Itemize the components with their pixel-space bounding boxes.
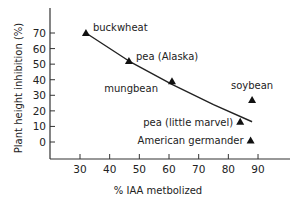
x-tick-label: 90 <box>251 163 264 175</box>
y-tick-label: 70 <box>33 27 46 39</box>
y-tick-label: 0 <box>39 136 46 148</box>
triangle-marker <box>125 57 133 64</box>
y-tick-label: 40 <box>33 74 46 86</box>
triangle-marker <box>168 77 176 84</box>
point-label: mungbean <box>104 83 158 94</box>
point-label: American germander <box>138 135 245 146</box>
y-tick-label: 20 <box>33 105 46 117</box>
triangle-marker <box>248 96 256 103</box>
x-tick-label: 80 <box>222 163 235 175</box>
axes: 01020304050607030405060708090 <box>33 8 290 175</box>
x-axis-label: % IAA metbolized <box>114 185 202 196</box>
y-tick-label: 10 <box>33 120 46 132</box>
point-label: buckwheat <box>93 22 148 33</box>
trend-line <box>86 33 252 122</box>
point-label: soybean <box>231 80 273 91</box>
point-label: pea (Alaska) <box>136 51 198 62</box>
x-tick-label: 50 <box>133 163 146 175</box>
triangle-marker <box>247 136 255 143</box>
triangle-marker <box>236 118 244 125</box>
y-tick-label: 30 <box>33 89 46 101</box>
y-tick-label: 50 <box>33 58 46 70</box>
scatter-chart: 01020304050607030405060708090 buckwheatp… <box>0 0 301 204</box>
x-tick-label: 30 <box>73 163 86 175</box>
point-label: pea (little marvel) <box>143 117 233 128</box>
y-axis-label: Plant height inhibition (%) <box>13 23 24 154</box>
x-tick-label: 60 <box>162 163 175 175</box>
data-points: buckwheatpea (Alaska)mungbeansoybeanpea … <box>82 22 273 146</box>
y-tick-label: 60 <box>33 43 46 55</box>
x-tick-label: 70 <box>192 163 205 175</box>
x-tick-label: 40 <box>103 163 116 175</box>
triangle-marker <box>82 29 90 36</box>
